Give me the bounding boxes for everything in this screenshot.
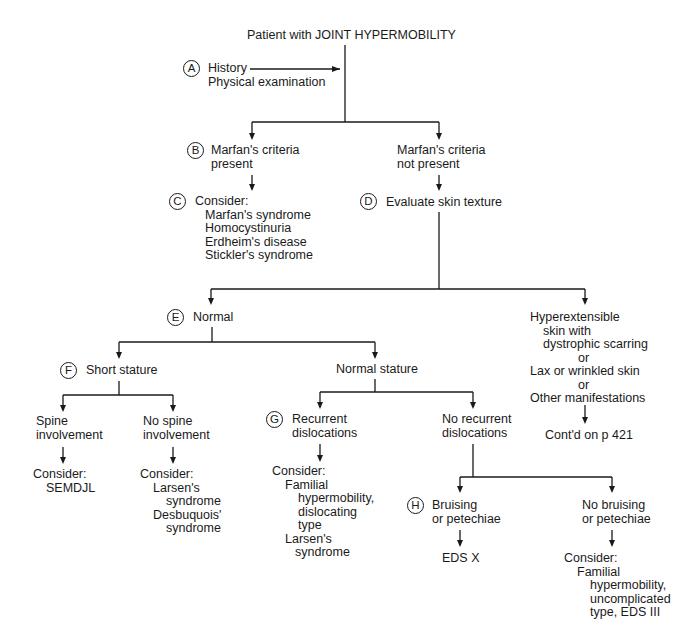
node-spine-involvement: Spine involvement (36, 415, 103, 442)
node-spine-consider: Consider: SEMDJL (33, 468, 95, 495)
h-line: Bruising (432, 499, 501, 513)
hyperext-line: Hyperextensible (530, 311, 650, 325)
spine-consider-item: SEMDJL (33, 482, 95, 496)
node-c-item: Homocystinuria (195, 222, 313, 236)
node-g-consider: Consider: Familial hypermobility, disloc… (272, 465, 374, 560)
step-badge-h: H (407, 497, 424, 514)
node-no-bruising-consider: Consider: Familial hypermobility, uncomp… (564, 552, 671, 620)
node-b-alt-line-1: Marfan's criteria (397, 144, 486, 158)
node-normal-stature: Normal stature (336, 363, 418, 377)
diagram-title: Patient with JOINT HYPERMOBILITY (247, 29, 456, 43)
hyperext-line: or (530, 379, 650, 393)
no-spine-consider-heading: Consider: (140, 468, 221, 482)
g-line: dislocations (292, 427, 357, 441)
node-c-item: Stickler's syndrome (195, 249, 313, 263)
g-consider-item: syndrome (272, 546, 374, 560)
spine-consider-heading: Consider: (33, 468, 95, 482)
g-consider-item: Familial (272, 479, 374, 493)
no-recurrent-line: dislocations (442, 427, 511, 441)
node-no-recurrent-dislocations: No recurrent dislocations (442, 413, 511, 440)
no-bruising-consider-item: type, EDS III (564, 606, 671, 620)
node-marfan-not-present: Marfan's criteria not present (397, 144, 486, 171)
step-badge-f: F (60, 362, 77, 379)
no-bruising-line: or petechiae (582, 513, 651, 527)
node-b-line-1: Marfan's criteria (211, 144, 300, 158)
node-h-bruising: Bruising or petechiae (432, 499, 501, 526)
node-d-evaluate-skin: Evaluate skin texture (386, 196, 502, 210)
no-spine-consider-item: syndrome (140, 522, 221, 536)
node-continued-page: Cont'd on p 421 (545, 429, 633, 443)
node-e-normal: Normal (193, 311, 233, 325)
no-bruising-consider-heading: Consider: (564, 552, 671, 566)
node-no-bruising: No bruising or petechiae (582, 499, 651, 526)
hyperext-line: skin with (530, 325, 650, 339)
g-consider-item: type (272, 519, 374, 533)
node-f-short-stature: Short stature (86, 364, 158, 378)
g-consider-item: Larsen's (272, 533, 374, 547)
step-badge-c: C (169, 193, 186, 210)
g-consider-item: dislocating (272, 506, 374, 520)
no-bruising-line: No bruising (582, 499, 651, 513)
node-no-spine-consider: Consider: Larsen's syndrome Desbuquois' … (140, 468, 221, 536)
g-line: Recurrent (292, 413, 357, 427)
no-spine-line: involvement (143, 429, 210, 443)
node-a-line-2: Physical examination (208, 76, 325, 90)
node-c-heading: Consider: (195, 195, 313, 209)
no-spine-consider-item: Larsen's (140, 482, 221, 496)
node-b-alt-line-2: not present (397, 158, 486, 172)
g-consider-item: hypermobility, (272, 492, 374, 506)
hyperext-line: Other manifestations (530, 392, 650, 406)
node-b-line-2: present (211, 158, 300, 172)
no-spine-line: No spine (143, 415, 210, 429)
node-no-spine-involvement: No spine involvement (143, 415, 210, 442)
node-g-recurrent-dislocations: Recurrent dislocations (292, 413, 357, 440)
no-bruising-consider-item: hypermobility, (564, 579, 671, 593)
node-a-history: History Physical examination (208, 62, 325, 89)
no-spine-consider-item: Desbuquois' (140, 509, 221, 523)
spine-line: Spine (36, 415, 103, 429)
node-c-item: Marfan's syndrome (195, 209, 313, 223)
hyperext-line: or (530, 352, 650, 366)
h-line: or petechiae (432, 513, 501, 527)
no-spine-consider-item: syndrome (140, 495, 221, 509)
node-c-consider: Consider: Marfan's syndrome Homocystinur… (195, 195, 313, 263)
node-hyperextensible-skin: Hyperextensible skin with dystrophic sca… (530, 311, 650, 406)
no-bruising-consider-item: Familial (564, 566, 671, 580)
hypermobility-flowchart: Patient with JOINT HYPERMOBILITY A Histo… (0, 0, 697, 642)
node-b-marfan-present: Marfan's criteria present (211, 144, 300, 171)
g-consider-heading: Consider: (272, 465, 374, 479)
step-badge-e: E (167, 309, 184, 326)
no-bruising-consider-item: uncomplicated (564, 593, 671, 607)
step-badge-g: G (266, 411, 283, 428)
step-badge-a: A (183, 60, 200, 77)
step-badge-b: B (187, 142, 204, 159)
no-recurrent-line: No recurrent (442, 413, 511, 427)
node-eds-x: EDS X (442, 552, 480, 566)
node-a-line-1: History (208, 62, 325, 76)
step-badge-d: D (360, 193, 377, 210)
hyperext-line: dystrophic scarring (530, 338, 650, 352)
node-c-item: Erdheim's disease (195, 236, 313, 250)
spine-line: involvement (36, 429, 103, 443)
hyperext-line: Lax or wrinkled skin (530, 365, 650, 379)
